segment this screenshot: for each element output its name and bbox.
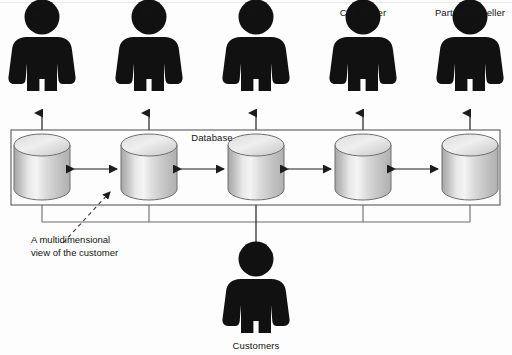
channel-label-mail: Mail bbox=[140, 7, 158, 18]
db-cylinder-store bbox=[228, 134, 284, 200]
diagram-graphics bbox=[0, 0, 512, 355]
annotation-line-1: A multidimensional bbox=[31, 234, 110, 247]
customer-figure-group bbox=[222, 242, 289, 334]
annotation-line-2: view of the customer bbox=[31, 247, 118, 260]
database-box-label: Database bbox=[191, 132, 232, 143]
db-cylinder-callcenter bbox=[335, 134, 391, 200]
db-cylinder-mail bbox=[121, 134, 177, 200]
channel-label-internet: Internet bbox=[25, 7, 58, 18]
upward-arrows bbox=[42, 113, 470, 130]
diagram-canvas: Internet Mail Store Call center Partner/… bbox=[0, 0, 512, 355]
channel-label-callcenter: Call center bbox=[340, 7, 387, 18]
channel-label-partner: Partner/Reseller bbox=[435, 7, 505, 18]
db-cylinder-partner bbox=[442, 134, 498, 200]
person-figure-customers bbox=[222, 242, 289, 334]
channel-label-store: Store bbox=[244, 7, 267, 18]
customer-label: Customers bbox=[233, 340, 280, 351]
db-cylinder-internet bbox=[14, 134, 70, 200]
database-cylinders bbox=[14, 134, 498, 200]
